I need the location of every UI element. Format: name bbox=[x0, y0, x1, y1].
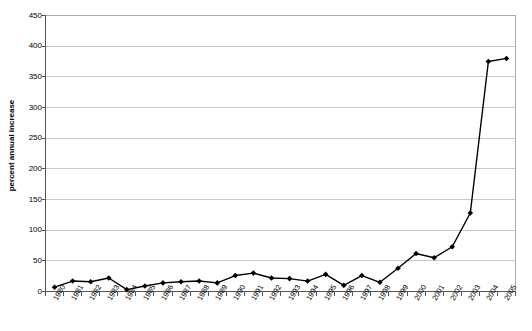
chart-plot-area bbox=[0, 0, 532, 331]
plot-background bbox=[46, 16, 516, 292]
chart-container: percent annual increase 0501001502002503… bbox=[0, 0, 532, 331]
